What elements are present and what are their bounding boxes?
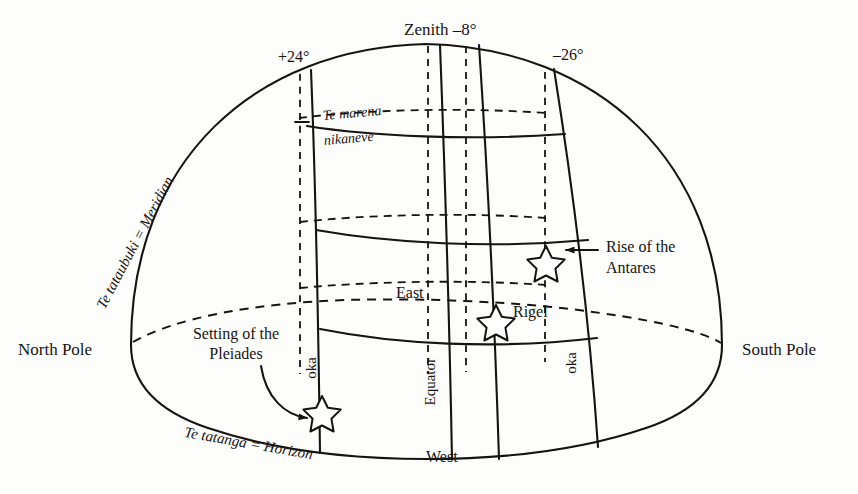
solid-vertical-zenith: [440, 45, 452, 459]
label-west: West: [426, 448, 458, 466]
star-rigel: [477, 305, 514, 341]
solid-vertical-west: [479, 45, 499, 459]
dome-outline: [131, 44, 722, 345]
label-east: East: [396, 284, 424, 302]
label-rise-antares-line2: Antares: [606, 259, 656, 277]
diagram-page: Zenith –8° +24° –26° Te marena nikaneve …: [0, 0, 858, 494]
latitude-dashed-middle: [300, 215, 546, 222]
star-antares: [527, 246, 564, 282]
label-declination-plus24: +24°: [278, 48, 309, 66]
label-rigel: Rigel: [513, 303, 548, 321]
label-rise-antares-line1: Rise of the: [606, 238, 675, 256]
label-oka-right: oka: [563, 352, 580, 374]
label-equator: Equator: [422, 358, 439, 405]
label-zenith: Zenith –8°: [404, 20, 476, 39]
label-declination-minus26: –26°: [553, 46, 583, 64]
star-pleiades: [303, 396, 340, 432]
latitude-arc-lower: [320, 329, 597, 344]
label-north-pole: North Pole: [18, 340, 92, 359]
label-oka-left: oka: [303, 357, 320, 379]
dome-right-base: [646, 345, 722, 428]
latitude-arc-middle: [316, 230, 588, 244]
label-setting-pleiades-line1: Setting of the: [171, 325, 301, 343]
label-setting-pleiades-line2: Pleiades: [171, 345, 301, 363]
label-south-pole: South Pole: [742, 340, 816, 359]
